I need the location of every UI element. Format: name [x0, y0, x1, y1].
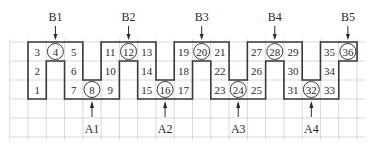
cell-number: 25: [251, 84, 263, 96]
arrowhead-down-icon: [127, 34, 131, 40]
cell: 7: [71, 84, 77, 96]
cell-number: 28: [269, 46, 281, 58]
cell-number: 13: [141, 46, 153, 58]
arrowhead-down-icon: [273, 34, 277, 40]
cell-number: 5: [71, 46, 77, 58]
arrowhead-up-icon: [236, 101, 240, 108]
cell: 22: [214, 65, 225, 77]
cell-number: 7: [71, 84, 77, 96]
cell-number: 24: [233, 84, 245, 96]
entry-label-b5: B5: [341, 10, 355, 40]
cell: 23: [214, 84, 226, 96]
cell: 2: [34, 65, 40, 77]
cell-number: 32: [306, 84, 317, 96]
arrowhead-down-icon: [346, 34, 350, 40]
cell: 27: [251, 46, 263, 58]
cell-number: 6: [71, 65, 77, 77]
cell: 3: [34, 46, 40, 58]
cell-circled: 12: [121, 44, 137, 60]
cell-number: 12: [123, 46, 134, 58]
arrowhead-up-icon: [309, 101, 313, 108]
cell: 9: [108, 84, 114, 96]
label-text: B3: [195, 10, 209, 24]
cell-number: 18: [178, 65, 190, 77]
cell-number: 16: [160, 84, 172, 96]
cell-circled: 8: [84, 82, 100, 98]
label-text: B2: [122, 10, 136, 24]
entry-label-a2: A2: [158, 101, 173, 136]
label-text: B4: [268, 10, 282, 24]
cell-number: 15: [141, 84, 153, 96]
cell-number: 26: [251, 65, 263, 77]
cell: 30: [288, 65, 300, 77]
entry-label-a3: A3: [231, 101, 246, 136]
cell: 18: [178, 65, 190, 77]
cell-number: 8: [89, 84, 95, 96]
label-text: A2: [158, 122, 173, 136]
cell-circled: 24: [230, 82, 246, 98]
cell-circled: 28: [267, 44, 283, 60]
cell-circled: 16: [157, 82, 173, 98]
cell: 11: [105, 46, 116, 58]
cell-number: 2: [34, 65, 40, 77]
cell: 33: [324, 84, 336, 96]
cell: 17: [178, 84, 190, 96]
cell: 13: [141, 46, 153, 58]
arrowhead-up-icon: [163, 101, 167, 108]
cell-number: 10: [105, 65, 117, 77]
cell-number: 21: [214, 46, 225, 58]
label-text: A4: [304, 122, 319, 136]
cell-number: 17: [178, 84, 190, 96]
cell: 1: [34, 84, 40, 96]
label-text: B1: [48, 10, 62, 24]
cell-number: 35: [324, 46, 336, 58]
entry-label-a4: A4: [304, 101, 319, 136]
cell-number: 1: [34, 84, 40, 96]
cell-number: 29: [288, 46, 300, 58]
cell: 10: [105, 65, 117, 77]
cell-number: 4: [53, 46, 59, 58]
arrowhead-up-icon: [90, 101, 94, 108]
entry-label-a1: A1: [85, 101, 100, 136]
cell: 5: [71, 46, 77, 58]
entry-label-b4: B4: [268, 10, 282, 40]
entry-label-b1: B1: [48, 10, 62, 40]
cell-number: 27: [251, 46, 263, 58]
label-text: B5: [341, 10, 355, 24]
cell: 15: [141, 84, 153, 96]
arrowhead-down-icon: [53, 34, 57, 40]
cell-number: 22: [214, 65, 225, 77]
cell: 34: [324, 65, 336, 77]
cell-number: 31: [288, 84, 299, 96]
cell-number: 23: [214, 84, 226, 96]
cell-circled: 20: [194, 44, 210, 60]
cell: 26: [251, 65, 263, 77]
cell: 19: [178, 46, 190, 58]
cell-number: 33: [324, 84, 336, 96]
cell-circled: 32: [303, 82, 319, 98]
cell: 21: [214, 46, 225, 58]
cell-number: 9: [108, 84, 114, 96]
cell-number: 30: [288, 65, 300, 77]
cell-number: 36: [342, 46, 354, 58]
cell-number: 3: [34, 46, 40, 58]
cell-number: 34: [324, 65, 336, 77]
cell-circled: 36: [340, 44, 356, 60]
entry-label-b3: B3: [195, 10, 209, 40]
cell: 25: [251, 84, 263, 96]
label-text: A3: [231, 122, 246, 136]
cell-circled: 4: [47, 44, 63, 60]
serpentine-grid-diagram: 1234567891011121314151617181920212223242…: [0, 0, 381, 150]
cell: 35: [324, 46, 336, 58]
cell: 31: [288, 84, 299, 96]
cell-number: 11: [105, 46, 116, 58]
cell: 14: [141, 65, 153, 77]
cell-number: 19: [178, 46, 190, 58]
cell: 6: [71, 65, 77, 77]
cell-number: 14: [141, 65, 153, 77]
cell-number: 20: [196, 46, 208, 58]
top-entry-labels: B1B2B3B4B5: [48, 10, 354, 40]
cell: 29: [288, 46, 300, 58]
label-text: A1: [85, 122, 100, 136]
entry-label-b2: B2: [122, 10, 136, 40]
